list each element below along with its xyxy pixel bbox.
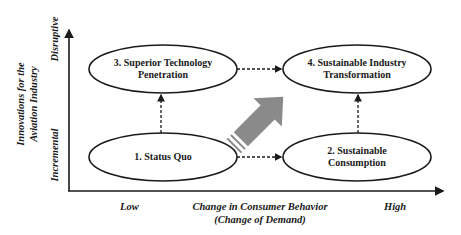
x-axis-low-label: Low (120, 201, 139, 212)
y-axis-low-label: Incremental (48, 120, 62, 190)
x-axis-high-label: High (384, 201, 406, 212)
y-axis-title: Innovations for the Aviation Industry (14, 34, 42, 174)
x-axis-title: Change in Consumer Behavior (Change of D… (185, 200, 335, 226)
y-axis-high-label: Disruptive (48, 4, 62, 74)
node-4-label: 4. Sustainable Industry Transformation (287, 57, 427, 81)
node-2-label: 2. Sustainable Consumption (287, 145, 427, 169)
node-3-label: 3. Superior Technology Penetration (93, 57, 233, 81)
node-1-label: 1. Status Quo (93, 151, 233, 163)
